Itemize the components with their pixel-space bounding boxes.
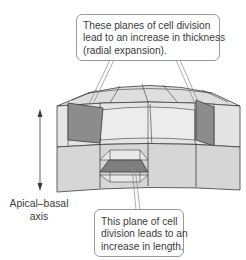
callout-line: lead to an increase in thickness xyxy=(83,32,219,44)
length-plane xyxy=(100,160,148,172)
lower-cell-tier xyxy=(57,141,240,192)
callout-line: This plane of cell xyxy=(101,216,183,228)
radial-expansion-callout: These planes of cell division lead to an… xyxy=(76,14,220,61)
callout-line: (radial expansion). xyxy=(83,45,219,57)
callout-line: These planes of cell division xyxy=(83,20,219,32)
axis-label-line: axis xyxy=(9,211,69,224)
length-increase-callout: This plane of cell division leads to an … xyxy=(94,209,184,257)
axis-label-line: Apical–basal xyxy=(9,198,69,211)
apical-basal-axis-label: Apical–basal axis xyxy=(9,198,69,223)
callout-line: increase in length. xyxy=(101,241,183,253)
radial-plane-left xyxy=(68,103,103,143)
radial-plane-right xyxy=(196,100,214,146)
callout-line: division leads to an xyxy=(101,228,183,240)
apical-basal-arrow-icon xyxy=(38,109,43,191)
